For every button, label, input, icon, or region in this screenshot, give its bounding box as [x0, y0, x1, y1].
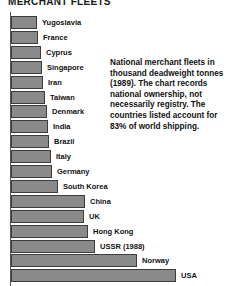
bar: [11, 210, 84, 223]
bar: [11, 91, 45, 104]
bar-label: India: [53, 121, 71, 132]
bar-label: Cyprus: [46, 47, 72, 58]
bar: [11, 180, 58, 193]
bar: [11, 76, 43, 89]
bar: [11, 31, 38, 44]
merchant-fleets-chart: MERCHANT FLEETS YugoslaviaFranceCyprusSi…: [0, 0, 233, 286]
bar-label: Brazil: [54, 136, 74, 147]
bar-label: USA: [181, 270, 197, 281]
bar: [11, 16, 37, 29]
bar: [11, 150, 51, 163]
bar-label: Singapore: [47, 62, 84, 73]
bar: [11, 105, 47, 118]
bar: [11, 165, 52, 178]
bar-label: USSR (1988): [100, 241, 145, 252]
bar: [11, 240, 95, 253]
bar-label: France: [43, 32, 68, 43]
bar-label: Norway: [142, 255, 169, 266]
bar: [11, 46, 41, 59]
bar: [11, 61, 42, 74]
bar-label: Denmark: [52, 106, 84, 117]
bar-label: Yugoslavia: [42, 17, 81, 28]
bar-label: Taiwan: [50, 92, 75, 103]
bar: [11, 225, 88, 238]
bar-label: Hong Kong: [93, 226, 133, 237]
chart-caption: National merchant fleets in thousand dea…: [110, 58, 226, 132]
bar: [11, 120, 48, 133]
bar-label: UK: [89, 211, 100, 222]
bar: [11, 254, 137, 267]
plot-area: YugoslaviaFranceCyprusSingaporeIranTaiwa…: [0, 0, 233, 286]
bar: [11, 195, 85, 208]
bar: [11, 135, 49, 148]
bar-label: Iran: [48, 77, 62, 88]
bar-label: South Korea: [63, 181, 108, 192]
bar-label: Germany: [57, 166, 90, 177]
bar: [11, 269, 176, 282]
bar-label: China: [90, 196, 111, 207]
bar-label: Italy: [56, 151, 71, 162]
